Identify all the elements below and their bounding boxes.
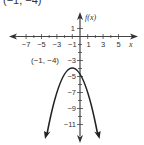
y-tick-label: −9: [67, 104, 76, 113]
y-axis: 1 −3 −5 −7 −9 −11 f(x): [64, 12, 97, 143]
y-tick-label: −5: [67, 72, 76, 81]
x-tick-label: 1: [86, 40, 90, 49]
x-tick-label: 5: [116, 40, 120, 49]
parabola-graph: (−1, −4) −7 −5 −3 −1 1 3 5 x: [0, 0, 144, 145]
x-axis: −7 −5 −3 −1 1 3 5 x: [9, 34, 138, 50]
x-tick-label: −3: [53, 40, 62, 49]
vertex-label: (−1, −4): [31, 56, 59, 65]
clipped-point-label: (−1, −4): [3, 0, 42, 6]
y-axis-title: f(x): [85, 13, 96, 22]
y-tick-label: −7: [67, 88, 76, 97]
x-tick-label: −7: [22, 40, 31, 49]
y-tick-label: 1: [71, 24, 75, 33]
x-tick-label: −1: [68, 40, 77, 49]
y-tick-label: −3: [67, 56, 76, 65]
x-tick-label: −5: [37, 40, 46, 49]
x-tick-label: 3: [101, 40, 105, 49]
x-axis-title: x: [128, 40, 133, 49]
y-tick-label: −11: [64, 120, 76, 129]
y-axis-down-arrow-icon: [77, 135, 83, 143]
